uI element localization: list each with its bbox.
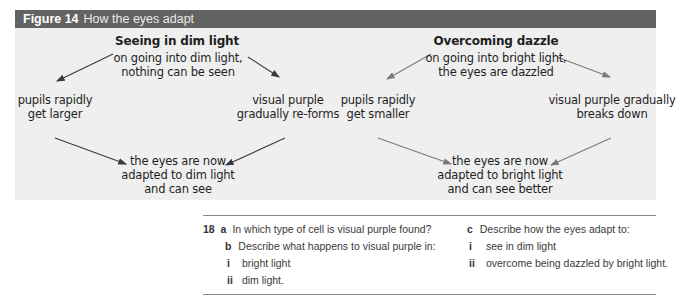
subpart-label-c-ii: ii xyxy=(469,257,483,270)
part-label-c: c xyxy=(467,223,473,236)
question-c-i-text: see in dim light xyxy=(486,240,556,252)
right-bottom-line1: the eyes are now xyxy=(437,154,562,168)
right-left-line2: get smaller xyxy=(341,107,416,121)
subpart-label-ii: ii xyxy=(227,274,239,287)
question-c-ii-text: overcome being dazzled by bright light. xyxy=(486,257,668,269)
part-label-a: a xyxy=(221,223,227,236)
right-right-node: visual purple gradually breaks down xyxy=(548,93,675,121)
right-left-node: pupils rapidly get smaller xyxy=(341,93,416,121)
left-right-line2: gradually re-forms xyxy=(237,107,339,121)
right-top-node: on going into bright light, the eyes are… xyxy=(425,51,566,79)
arrow-top-to-left-2 xyxy=(387,54,431,79)
question-b-text: Describe what happens to visual purple i… xyxy=(238,240,435,252)
left-left-node: pupils rapidly get larger xyxy=(18,93,93,121)
question-c-text: Describe how the eyes adapt to: xyxy=(480,223,630,235)
right-top-line1: on going into bright light, xyxy=(425,51,566,65)
arrow-top-to-right xyxy=(248,57,279,77)
left-right-line1: visual purple xyxy=(237,93,339,107)
left-top-line2: nothing can be seen xyxy=(113,65,242,79)
left-top-node: on going into dim light, nothing can be … xyxy=(113,51,242,79)
question-18b-i: i bright light xyxy=(227,257,290,270)
left-left-line2: get larger xyxy=(18,107,93,121)
left-bottom-line3: and can see xyxy=(121,182,234,196)
right-top-line2: the eyes are dazzled xyxy=(425,65,566,79)
left-bottom-line1: the eyes are now xyxy=(121,154,234,168)
left-bottom-node: the eyes are now adapted to dim light an… xyxy=(121,154,234,196)
left-right-node: visual purple gradually re-forms xyxy=(237,93,339,121)
left-left-line1: pupils rapidly xyxy=(18,93,93,107)
arrow-top-to-left xyxy=(57,54,113,81)
arrow-left-to-bottom xyxy=(55,138,126,164)
figure-panel: Figure 14How the eyes adapt Seeing in di… xyxy=(15,10,656,200)
right-bottom-node: the eyes are now adapted to bright light… xyxy=(437,154,562,196)
question-18c: c Describe how the eyes adapt to: xyxy=(467,223,630,236)
left-top-line1: on going into dim light, xyxy=(113,51,242,65)
arrow-right-to-bottom xyxy=(226,138,285,165)
question-18b-ii: ii dim light. xyxy=(227,274,284,287)
question-number: 18 xyxy=(203,223,215,235)
question-18a: 18 a In which type of cell is visual pur… xyxy=(203,223,431,236)
question-block: 18 a In which type of cell is visual pur… xyxy=(203,215,656,295)
part-label-b: b xyxy=(225,240,231,253)
left-diagram-heading: Seeing in dim light xyxy=(115,34,239,48)
right-bottom-line3: and can see better xyxy=(437,182,562,196)
right-right-line1: visual purple gradually xyxy=(548,93,675,107)
question-18b: b Describe what happens to visual purple… xyxy=(225,240,436,253)
right-right-line2: breaks down xyxy=(548,107,675,121)
subpart-label-c-i: i xyxy=(469,240,483,253)
question-a-text: In which type of cell is visual purple f… xyxy=(232,223,431,235)
right-left-line1: pupils rapidly xyxy=(341,93,416,107)
question-b-i-text: bright light xyxy=(242,257,290,269)
question-18c-ii: ii overcome being dazzled by bright ligh… xyxy=(469,257,668,270)
right-diagram-heading: Overcoming dazzle xyxy=(434,34,559,48)
right-bottom-line2: adapted to bright light xyxy=(437,168,562,182)
question-b-ii-text: dim light. xyxy=(242,274,284,286)
subpart-label-i: i xyxy=(227,257,239,270)
left-bottom-line2: adapted to dim light xyxy=(121,168,234,182)
question-18c-i: i see in dim light xyxy=(469,240,556,253)
